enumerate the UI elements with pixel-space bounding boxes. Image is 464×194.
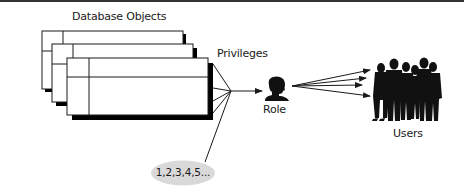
role-to-users-arrows [292, 70, 370, 96]
privileges-label: Privileges [217, 47, 268, 60]
group-silhouette-icon [372, 58, 442, 122]
table-frame-3 [67, 58, 213, 120]
privilege-diagram [0, 0, 464, 194]
database-objects-icon [42, 31, 213, 120]
sequence-label: 1,2,3,4,5... [151, 166, 215, 178]
users-label: Users [393, 127, 423, 140]
person-silhouette-icon [265, 76, 289, 101]
database-objects-label: Database Objects [72, 10, 166, 23]
role-label: Role [263, 103, 286, 116]
